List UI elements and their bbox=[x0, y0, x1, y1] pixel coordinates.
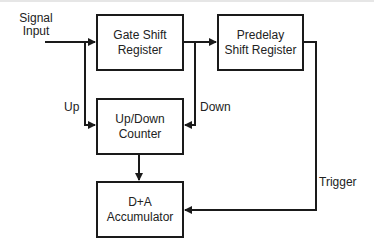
trigger-label: Trigger bbox=[319, 176, 357, 189]
accumulator-block: D+A Accumulator bbox=[96, 181, 184, 238]
down-label: Down bbox=[200, 101, 231, 114]
gate-shift-register-line1: Gate Shift bbox=[113, 28, 166, 43]
signal-input-label: Signal Input bbox=[14, 12, 58, 38]
up-arrow bbox=[85, 42, 95, 125]
up-down-counter-block: Up/Down Counter bbox=[96, 98, 184, 155]
up-label: Up bbox=[64, 101, 79, 114]
predelay-line2: Shift Register bbox=[224, 43, 296, 58]
down-arrow bbox=[185, 42, 195, 125]
predelay-shift-register-block: Predelay Shift Register bbox=[217, 14, 304, 71]
accumulator-line1: D+A bbox=[128, 195, 152, 210]
predelay-line1: Predelay bbox=[237, 28, 284, 43]
counter-line2: Counter bbox=[119, 127, 162, 142]
counter-line1: Up/Down bbox=[115, 112, 164, 127]
signal-input-line2: Input bbox=[14, 25, 58, 38]
gate-shift-register-block: Gate Shift Register bbox=[96, 14, 184, 71]
gate-shift-register-line2: Register bbox=[118, 43, 163, 58]
accumulator-line2: Accumulator bbox=[107, 210, 174, 225]
